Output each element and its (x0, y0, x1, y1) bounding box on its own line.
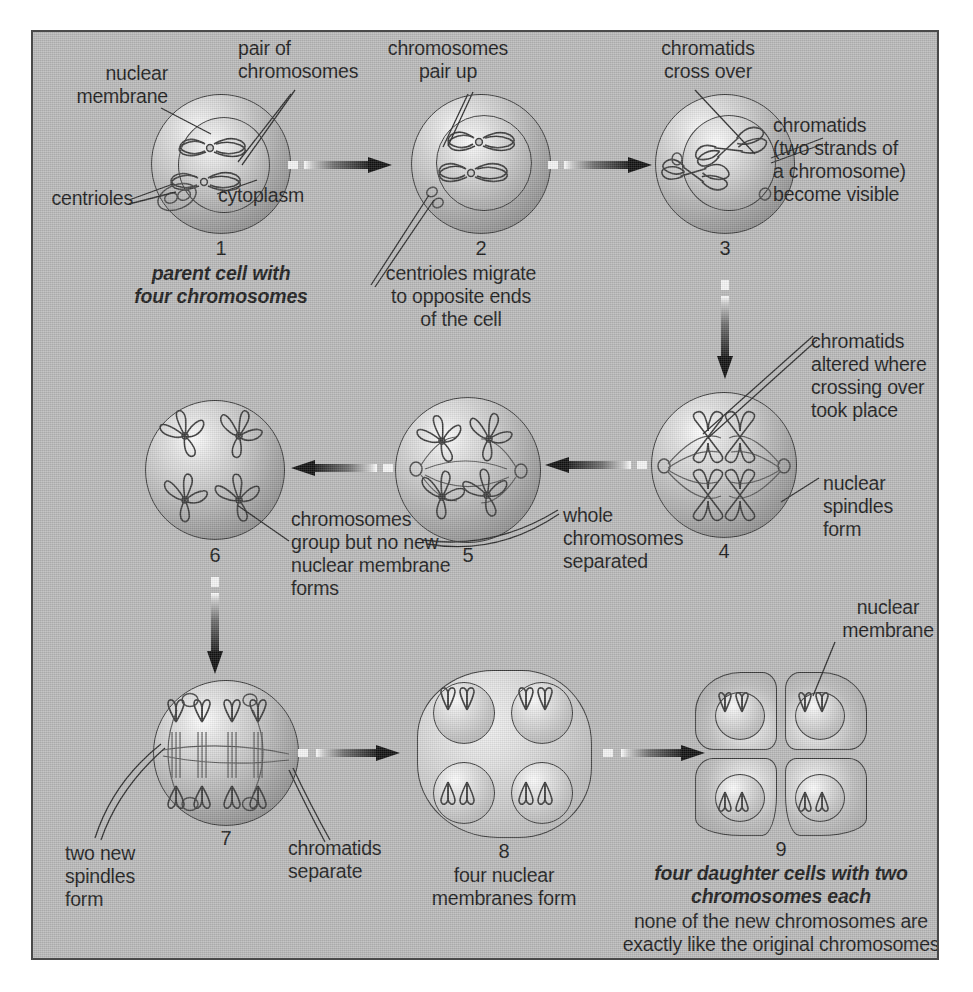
caption-stage-9: four daughter cells with two chromosomes… (621, 862, 939, 908)
caption-stage-9-note: none of the new chromosomes are exactly … (591, 910, 939, 956)
label-nuclear-spindles-form: nuclear spindles form (823, 472, 939, 541)
label-cytoplasm: cytoplasm (218, 184, 348, 207)
arrow-6-to-7 (204, 577, 226, 679)
meiosis-diagram-panel: nuclear membrane pair of chromosomes cen… (31, 30, 939, 960)
cell-8-contents (417, 670, 592, 838)
label-whole-chromosomes-separated: whole chromosomes separated (563, 504, 738, 573)
label-chromatids-altered: chromatids altered where crossing over t… (811, 330, 939, 422)
label-chromosomes-group: chromosomes group but no new nuclear mem… (291, 508, 531, 600)
arrow-8-to-9 (603, 742, 713, 764)
label-two-new-spindles-form: two new spindles form (65, 842, 205, 911)
label-chromatids-two-strands: chromatids (two strands of a chromosome)… (773, 114, 939, 206)
caption-stage-8: four nuclear membranes form (404, 864, 604, 910)
label-chromatids-cross-over: chromatids cross over (623, 37, 793, 83)
label-chromosomes-pair-up: chromosomes pair up (353, 37, 543, 83)
label-nuclear-membrane-9: nuclear membrane (813, 596, 939, 642)
stage-number-8: 8 (484, 840, 524, 863)
stage-number-6: 6 (195, 544, 235, 567)
stage-number-9: 9 (761, 838, 801, 861)
screenshot-root: nuclear membrane pair of chromosomes cen… (0, 0, 973, 992)
stage-number-1: 1 (201, 237, 241, 260)
arrow-5-to-6 (291, 457, 393, 479)
stage-number-7: 7 (206, 827, 246, 850)
caption-stage-2: centrioles migrate to opposite ends of t… (351, 262, 571, 331)
label-nuclear-membrane-1: nuclear membrane (43, 62, 168, 108)
label-centrioles: centrioles (33, 187, 133, 210)
stage-number-3: 3 (705, 237, 745, 260)
stage-number-2: 2 (461, 237, 501, 260)
caption-stage-1: parent cell with four chromosomes (111, 262, 331, 308)
